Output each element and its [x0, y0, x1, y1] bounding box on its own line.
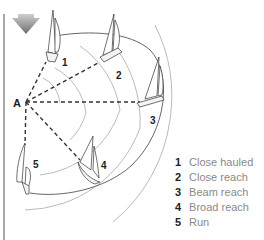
course-line-4 [26, 102, 80, 160]
arc-outer [113, 25, 172, 222]
legend-label: Close hauled [189, 156, 253, 168]
legend-label: Broad reach [189, 201, 249, 213]
wind-arrow-icon [12, 14, 40, 34]
boat-3 [137, 57, 164, 107]
legend-label: Close reach [189, 171, 248, 183]
arc-3 [40, 46, 120, 175]
legend-number: 4 [175, 200, 186, 214]
legend-item-5: 5 Run [175, 215, 209, 229]
boat-label-3: 3 [150, 115, 156, 126]
boat-label-2: 2 [116, 70, 122, 81]
legend-item-2: 2 Close reach [175, 170, 248, 184]
origin-label: A [13, 97, 21, 109]
legend-number: 2 [175, 170, 186, 184]
legend-item-1: 1 Close hauled [175, 155, 253, 169]
boat-label-5: 5 [33, 159, 39, 170]
boat-label-4: 4 [101, 160, 107, 171]
legend-number: 3 [175, 185, 186, 199]
boat-label-1: 1 [62, 57, 68, 68]
course-line-5 [25, 102, 26, 145]
arc-inner [43, 78, 60, 103]
course-line-2 [26, 62, 100, 102]
boat-4 [78, 136, 100, 184]
arc-2 [55, 68, 86, 140]
course-line-1 [26, 62, 46, 102]
course-lines [25, 62, 140, 160]
legend-number: 1 [175, 155, 186, 169]
legend-item-4: 4 Broad reach [175, 200, 249, 214]
boat-5 [17, 143, 31, 194]
boat-2 [100, 14, 122, 62]
legend-item-3: 3 Beam reach [175, 185, 248, 199]
legend-number: 5 [175, 215, 186, 229]
legend-label: Beam reach [189, 186, 248, 198]
arc-4 [25, 40, 140, 210]
boat-1 [46, 10, 60, 62]
legend-label: Run [189, 216, 209, 228]
